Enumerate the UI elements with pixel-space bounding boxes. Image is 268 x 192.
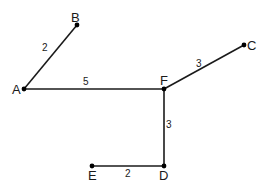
node-label-a: A bbox=[12, 82, 21, 97]
graph-canvas: A B C D E F 2 5 3 3 2 bbox=[0, 0, 268, 192]
node-a bbox=[22, 87, 27, 92]
node-label-d: D bbox=[159, 168, 168, 183]
edge-weight-a-f: 5 bbox=[83, 76, 89, 87]
node-label-e: E bbox=[88, 168, 97, 183]
edge-a-b bbox=[24, 25, 77, 89]
node-label-f: F bbox=[160, 73, 168, 88]
edge-f-c bbox=[164, 45, 244, 89]
edge-weight-e-d: 2 bbox=[125, 168, 131, 179]
node-c bbox=[242, 43, 247, 48]
edge-weight-f-d: 3 bbox=[166, 119, 172, 130]
edge-weight-f-c: 3 bbox=[196, 58, 202, 69]
node-label-b: B bbox=[71, 10, 80, 25]
edge-weight-a-b: 2 bbox=[42, 42, 48, 53]
node-label-c: C bbox=[247, 38, 256, 53]
